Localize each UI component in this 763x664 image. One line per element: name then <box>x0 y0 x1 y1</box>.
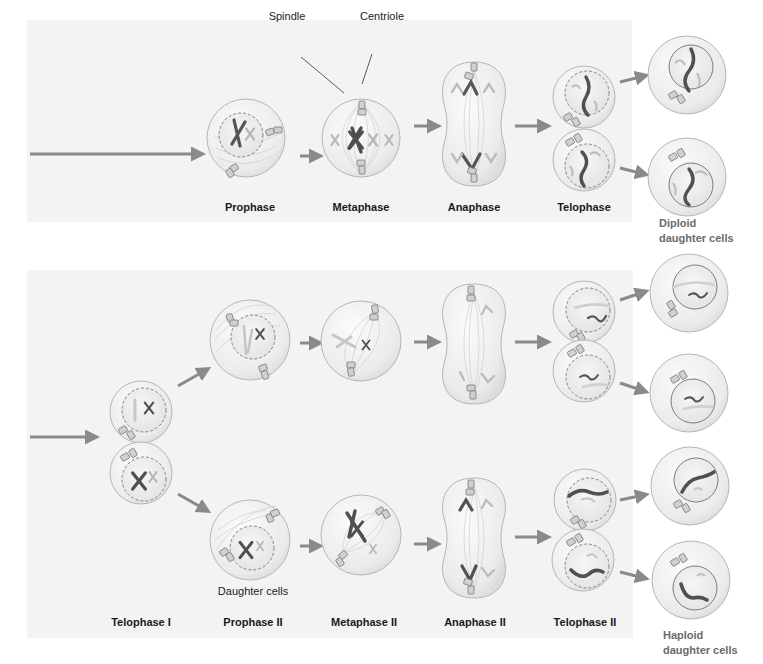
haploid-label-line2: daughter cells <box>663 643 738 658</box>
phase-label-telophase: Telophase <box>557 201 611 213</box>
spindle-label: Spindle <box>269 10 306 22</box>
telophase-ii-cell-2 <box>553 340 615 402</box>
telophase-ii-cell-3 <box>554 469 616 531</box>
diploid-label-line2: daughter cells <box>659 231 734 246</box>
anaphase-ii-cell-bottom <box>443 478 506 598</box>
prophase-cell <box>207 99 285 178</box>
telophase-cell-top <box>553 66 615 128</box>
haploid-daughter-cell-3 <box>651 447 729 525</box>
diploid-daughter-cell-2 <box>648 138 726 216</box>
phase-label-metaphase: Metaphase <box>333 201 390 213</box>
prophase-ii-cell-top <box>210 300 290 380</box>
phase-label-prophase: Prophase <box>225 201 275 213</box>
haploid-daughter-cell-2 <box>650 354 728 432</box>
diploid-label-line1: Diploid <box>659 216 734 231</box>
haploid-label: Haploid daughter cells <box>663 628 738 658</box>
telophase-i-cell-bottom <box>110 442 172 504</box>
telophase-i-cell-top <box>110 381 172 443</box>
anaphase-cell <box>443 62 506 186</box>
telophase-ii-cell-1 <box>553 281 615 343</box>
anaphase-ii-cell-top <box>443 284 506 404</box>
cell-division-diagram <box>0 0 763 664</box>
daughter-cells-label: Daughter cells <box>218 585 288 597</box>
haploid-daughter-cell-1 <box>650 254 728 332</box>
haploid-daughter-cell-4 <box>652 541 730 619</box>
prophase-ii-cell-bottom <box>210 500 290 580</box>
metaphase-ii-cell-top <box>321 301 401 381</box>
phase-label-telophase-ii: Telophase II <box>554 616 617 628</box>
metaphase-cell <box>322 99 400 177</box>
telophase-cell-bottom <box>553 129 615 191</box>
phase-label-prophase-ii: Prophase II <box>223 616 282 628</box>
phase-label-telophase-i: Telophase I <box>111 616 171 628</box>
centriole-label: Centriole <box>360 10 404 22</box>
telophase-ii-cell-4 <box>552 529 614 591</box>
metaphase-ii-cell-bottom <box>321 495 401 575</box>
haploid-label-line1: Haploid <box>663 628 738 643</box>
phase-label-anaphase-ii: Anaphase II <box>444 616 506 628</box>
diploid-label: Diploid daughter cells <box>659 216 734 246</box>
phase-label-metaphase-ii: Metaphase II <box>331 616 397 628</box>
diploid-daughter-cell-1 <box>648 36 726 114</box>
phase-label-anaphase: Anaphase <box>448 201 501 213</box>
